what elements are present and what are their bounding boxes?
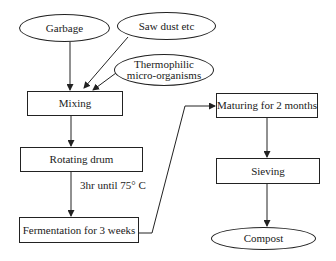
- node-sieving: Sieving: [216, 158, 320, 184]
- node-mixing-label: Mixing: [59, 98, 91, 109]
- node-rotating-drum-label: Rotating drum: [50, 154, 114, 165]
- node-maturing-label: Maturing for 2 months: [217, 100, 317, 111]
- node-maturing: Maturing for 2 months: [216, 93, 318, 118]
- node-thermophilic: Thermophilic micro-organisms: [114, 54, 214, 86]
- node-mixing: Mixing: [27, 91, 123, 116]
- node-compost-label: Compost: [244, 233, 284, 244]
- node-sieving-label: Sieving: [251, 166, 285, 177]
- node-garbage: Garbage: [19, 14, 110, 42]
- node-compost: Compost: [211, 227, 316, 250]
- node-sawdust-label: Saw dust etc: [139, 21, 195, 32]
- node-thermophilic-label-line2: micro-organisms: [127, 70, 201, 81]
- node-sawdust: Saw dust etc: [117, 12, 216, 40]
- node-fermentation: Fermentation for 3 weeks: [19, 217, 139, 243]
- node-garbage-label: Garbage: [46, 23, 83, 34]
- edge-label-drum-to-fermentation: 3hr until 75° C: [80, 179, 146, 191]
- arrow-fermentation-to-maturing: [139, 106, 215, 233]
- node-fermentation-label: Fermentation for 3 weeks: [23, 225, 136, 236]
- arrow-thermophilic-to-mixing: [93, 73, 116, 90]
- node-rotating-drum: Rotating drum: [20, 147, 143, 172]
